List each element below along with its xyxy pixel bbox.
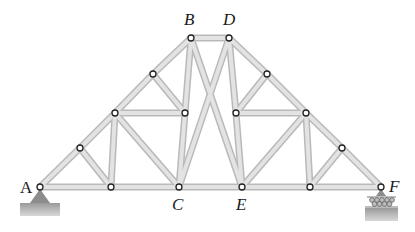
- ground-block-a: [20, 203, 60, 216]
- truss-joints: [37, 35, 384, 190]
- member-LT1-L1: [80, 148, 111, 187]
- joint-D: [226, 35, 232, 41]
- joint-RT1: [339, 145, 345, 151]
- joint-RT3: [264, 71, 270, 77]
- joint-LT2: [112, 110, 118, 116]
- member-RT2-E: [242, 113, 306, 187]
- label-E: E: [235, 195, 247, 214]
- joint-LT1: [77, 145, 83, 151]
- pin-triangle-icon: [30, 189, 50, 203]
- joint-RI: [233, 110, 239, 116]
- member-LT1-LT2: [80, 113, 115, 148]
- joint-LI: [182, 110, 188, 116]
- member-LT2-LT3: [115, 74, 153, 113]
- joint-C: [176, 184, 182, 190]
- label-F: F: [388, 177, 400, 196]
- member-RT3-RT2: [267, 74, 306, 113]
- joint-F: [378, 184, 384, 190]
- joint-RT2: [303, 110, 309, 116]
- member-RT2-RT1: [306, 113, 342, 148]
- joint-R1: [307, 184, 313, 190]
- joint-L1: [108, 184, 114, 190]
- truss-diagram: ABCDEF: [0, 0, 415, 232]
- joint-B: [188, 35, 194, 41]
- member-LT3-LI: [153, 74, 185, 113]
- joint-A: [37, 184, 43, 190]
- label-A: A: [20, 178, 33, 197]
- member-A-LT1: [40, 148, 80, 187]
- member-RT1-F: [342, 148, 381, 187]
- ground-block-f: [365, 208, 398, 221]
- member-LT2-C: [115, 113, 179, 187]
- truss-members-fill: [40, 38, 381, 187]
- label-C: C: [172, 195, 184, 214]
- member-RT3-RI: [236, 74, 267, 113]
- label-B: B: [184, 10, 195, 29]
- joint-LT3: [150, 71, 156, 77]
- roller-circles-icon: [370, 198, 395, 207]
- label-D: D: [222, 10, 236, 29]
- member-RT1-R1: [310, 148, 342, 187]
- joint-E: [239, 184, 245, 190]
